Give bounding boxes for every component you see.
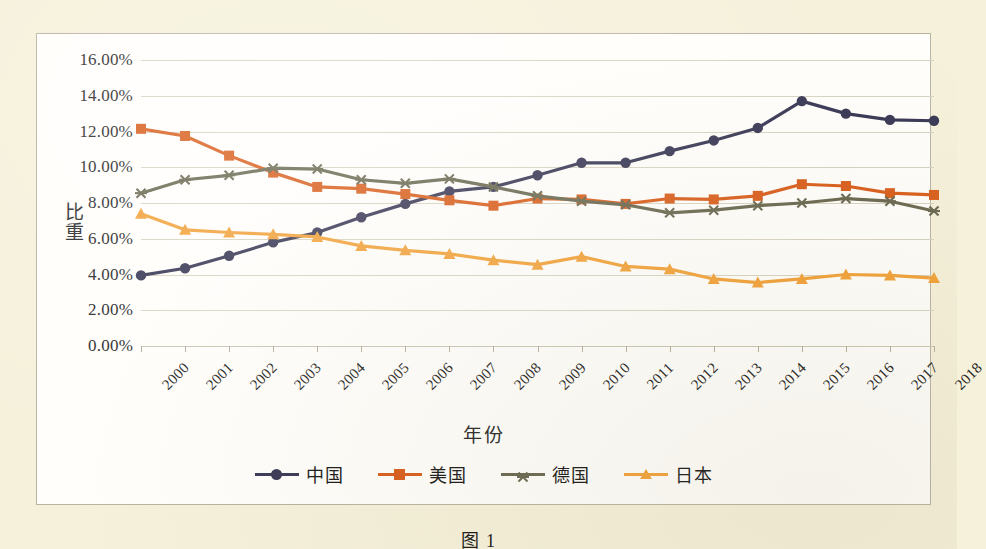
x-axis-tick-label: 2004 (335, 359, 369, 393)
x-axis-tick (934, 346, 935, 352)
data-point-marker (753, 123, 763, 133)
data-point-marker (796, 199, 808, 208)
data-point-marker (708, 206, 720, 215)
data-point-marker (532, 170, 542, 180)
data-point-marker (180, 263, 190, 273)
data-point-marker (399, 179, 411, 188)
x-axis-tick-label: 2011 (643, 359, 677, 393)
x-axis-tick (758, 346, 759, 352)
x-axis-tick (890, 346, 891, 352)
plot-area (141, 60, 934, 346)
x-axis-tick (493, 346, 494, 352)
data-point-marker (400, 189, 410, 199)
x-axis-tick-label: 2006 (423, 359, 457, 393)
legend-label: 德国 (552, 461, 590, 487)
x-axis-tick-labels: 2000200120022003200420052006200720082009… (141, 354, 934, 410)
data-point-marker (135, 208, 147, 219)
x-axis-tick-label: 2005 (379, 359, 413, 393)
x-axis-tick (229, 346, 230, 352)
x-axis-tick-label: 2012 (687, 359, 721, 393)
series-中国 (136, 96, 939, 281)
legend-marker-square-icon (394, 469, 405, 480)
legend-swatch-icon (255, 467, 299, 481)
data-point-marker (664, 208, 676, 217)
data-point-marker (400, 199, 410, 209)
data-point-marker (356, 184, 366, 194)
data-point-marker (135, 189, 147, 198)
x-axis-tick (626, 346, 627, 352)
data-point-marker (885, 115, 895, 125)
x-axis-tick (538, 346, 539, 352)
data-point-marker (620, 158, 630, 168)
y-axis-tick-label: 6.00% (88, 229, 133, 249)
legend-label: 中国 (306, 461, 344, 487)
x-axis-tick-label: 2001 (203, 359, 237, 393)
data-point-marker (444, 195, 454, 205)
data-point-marker (311, 165, 323, 174)
y-axis-tick-label: 0.00% (88, 336, 133, 356)
data-point-marker (929, 116, 939, 126)
x-axis-title: 年份 (37, 420, 930, 447)
y-axis-tick-label: 2.00% (88, 300, 133, 320)
x-axis-tick (714, 346, 715, 352)
data-point-marker (665, 194, 675, 204)
y-axis-tick-label: 16.00% (79, 50, 133, 70)
x-axis-tick (405, 346, 406, 352)
data-point-marker (356, 212, 366, 222)
y-axis-tick-label: 8.00% (88, 193, 133, 213)
x-axis-tick-label: 2007 (467, 359, 501, 393)
data-point-marker (179, 175, 191, 184)
x-axis-tick (185, 346, 186, 352)
data-point-marker (312, 182, 322, 192)
x-axis-tick (361, 346, 362, 352)
legend-label: 美国 (429, 461, 467, 487)
x-axis-tick-label: 2008 (511, 359, 545, 393)
data-point-marker (136, 270, 146, 280)
x-axis-ticks (141, 346, 934, 353)
x-axis-tick-label: 2003 (291, 359, 325, 393)
legend-item-美国[interactable]: 美国 (378, 461, 467, 487)
legend-marker-circle-icon (271, 469, 282, 480)
data-point-marker (224, 251, 234, 261)
x-axis-tick (802, 346, 803, 352)
data-point-marker (753, 191, 763, 201)
series-layer (141, 60, 934, 346)
legend-marker-triangle-icon (640, 469, 652, 479)
data-point-marker (797, 96, 807, 106)
data-point-marker (709, 135, 719, 145)
chart-legend: 中国美国德国日本 (37, 461, 930, 487)
data-point-marker (709, 194, 719, 204)
legend-item-德国[interactable]: 德国 (501, 461, 590, 487)
series-美国 (136, 124, 939, 211)
x-axis-tick-label: 2009 (555, 359, 589, 393)
data-point-marker (444, 186, 454, 196)
data-point-marker (136, 124, 146, 134)
data-point-marker (576, 158, 586, 168)
series-line (141, 214, 934, 283)
data-point-marker (840, 194, 852, 203)
x-axis-tick-label: 2002 (247, 359, 281, 393)
data-point-marker (841, 181, 851, 191)
data-point-marker (929, 190, 939, 200)
legend-item-中国[interactable]: 中国 (255, 461, 344, 487)
x-axis-tick (141, 346, 142, 352)
x-axis-tick-label: 2016 (864, 359, 898, 393)
x-axis-tick (670, 346, 671, 352)
series-line (141, 101, 934, 275)
legend-swatch-icon (378, 467, 422, 481)
chart-frame: 0.00%2.00%4.00%6.00%8.00%10.00%12.00%14.… (36, 33, 931, 505)
legend-marker-asterisk-icon (517, 469, 528, 480)
y-axis-tick-label: 14.00% (79, 86, 133, 106)
legend-label: 日本 (675, 461, 713, 487)
y-axis-tick-label: 12.00% (79, 122, 133, 142)
data-point-marker (443, 174, 455, 183)
data-point-marker (180, 131, 190, 141)
x-axis-tick-label: 2000 (159, 359, 193, 393)
x-axis-tick-label: 2015 (820, 359, 854, 393)
data-point-marker (355, 175, 367, 184)
legend-item-日本[interactable]: 日本 (624, 461, 713, 487)
data-point-marker (664, 146, 674, 156)
x-axis-tick-label: 2018 (952, 359, 986, 393)
data-point-marker (841, 108, 851, 118)
